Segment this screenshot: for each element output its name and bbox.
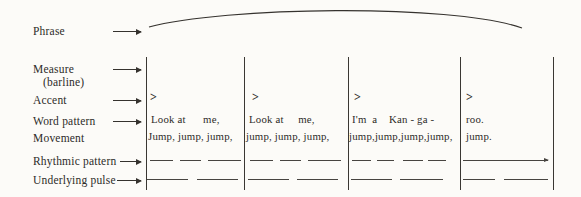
accent-label: Accent — [33, 93, 67, 107]
measure-sublabel: (barline) — [43, 75, 84, 89]
word-pattern-text: I'm a Kan - ga - — [352, 113, 434, 126]
word-pattern-text: Look at me, — [249, 113, 315, 126]
pulse-dash — [297, 179, 338, 180]
accent-mark: > — [354, 91, 361, 104]
rhythmic-pattern-dash — [308, 160, 341, 161]
movement-text: jump, jump, jump, — [246, 130, 329, 143]
word-pattern-label: Word pattern — [33, 114, 95, 128]
barline — [460, 57, 461, 190]
movement-text: jump. — [466, 130, 492, 143]
phrase-label: Phrase — [33, 24, 65, 38]
underlying-pulse-arrow-icon — [117, 180, 141, 181]
accent-mark: > — [150, 91, 157, 104]
barline — [348, 57, 349, 190]
rhythmic-pattern-dash — [428, 160, 446, 161]
rhythmic-pattern-dash — [403, 160, 423, 161]
underlying-pulse-label: Underlying pulse — [33, 173, 116, 187]
movement-text: jump,jump,jump,jump, — [349, 130, 453, 143]
rhythmic-pattern-dash — [250, 160, 273, 161]
measure-arrow-icon — [113, 69, 141, 70]
pulse-dash — [248, 179, 289, 180]
rhythmic-pattern-dash — [377, 160, 394, 161]
movement-label: Movement — [33, 131, 84, 145]
rhythmic-pattern-dash — [208, 160, 241, 161]
rhythmic-pattern-dash — [150, 160, 173, 161]
pulse-dash — [400, 179, 443, 180]
barline — [244, 57, 245, 190]
barline — [553, 57, 554, 190]
rhythmic-pattern-label: Rhythmic pattern — [33, 154, 116, 168]
accent-mark: > — [252, 91, 259, 104]
pulse-dash — [463, 179, 495, 180]
music-phrase-diagram: Phrase Measure (barline) Accent Word pat… — [0, 0, 581, 197]
rhythmic-pattern-dash — [180, 160, 201, 161]
pulse-dash — [504, 179, 548, 180]
rhythmic-pattern-arrow-icon — [120, 161, 141, 162]
word-pattern-text: Look at me, — [151, 113, 220, 126]
pulse-dash — [147, 179, 188, 180]
accent-arrow-icon — [113, 100, 141, 101]
word-pattern-text: roo. — [466, 113, 484, 126]
rhythmic-pattern-dash — [463, 160, 548, 161]
rhythmic-pattern-dash — [280, 160, 301, 161]
pulse-dash — [351, 179, 392, 180]
movement-text: Jump, jump, jump, — [148, 130, 233, 143]
rhythmic-pattern-dash — [352, 160, 371, 161]
phrase-arrow-icon — [113, 31, 141, 32]
measure-label: Measure — [33, 62, 74, 76]
pulse-dash — [197, 179, 238, 180]
barline — [146, 57, 147, 190]
accent-mark: > — [466, 91, 473, 104]
word-pattern-arrow-icon — [113, 121, 141, 122]
